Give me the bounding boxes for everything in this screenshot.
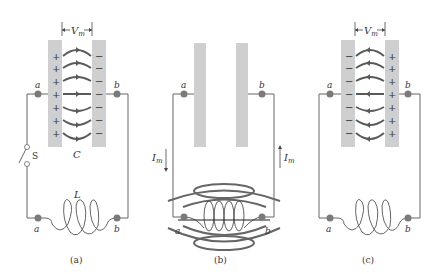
node-a-bottom bbox=[327, 215, 334, 222]
svg-text:+: + bbox=[388, 51, 396, 62]
caption-a: (a) bbox=[70, 255, 82, 265]
inductor-coil bbox=[38, 199, 117, 234]
svg-text:−: − bbox=[345, 102, 353, 113]
panel-c: Vm −−−−−−− +++++++ bbox=[319, 22, 420, 265]
svg-text:Im: Im bbox=[151, 152, 163, 165]
switch: S bbox=[19, 145, 38, 167]
capacitor-label: C bbox=[73, 149, 81, 160]
svg-text:+: + bbox=[52, 89, 60, 100]
node-b-label: b bbox=[114, 80, 120, 90]
node-b-label: b bbox=[405, 80, 411, 90]
voltage-dimension: Vm bbox=[62, 22, 92, 38]
svg-text:+: + bbox=[388, 63, 396, 74]
node-a-top bbox=[181, 91, 188, 98]
switch-label: S bbox=[32, 151, 38, 161]
svg-text:Im: Im bbox=[283, 152, 295, 165]
voltage-dimension: Vm bbox=[355, 22, 385, 38]
svg-text:+: + bbox=[52, 51, 60, 62]
node-b-bottom bbox=[405, 215, 412, 222]
svg-text:−: − bbox=[95, 115, 103, 126]
node-b-bottom-label: b bbox=[114, 224, 120, 234]
svg-text:−: − bbox=[95, 128, 103, 139]
current-arrow-right: Im bbox=[278, 145, 295, 168]
node-a-label: a bbox=[181, 80, 186, 90]
panel-b: a b Im Im bbox=[151, 43, 295, 265]
voltage-label: Vm bbox=[71, 25, 85, 38]
node-a-label: a bbox=[35, 80, 40, 90]
node-b-top bbox=[405, 91, 412, 98]
node-b-bottom bbox=[259, 214, 266, 221]
node-a-bottom-label: a bbox=[175, 226, 180, 236]
capacitor-left-plate bbox=[194, 43, 206, 147]
svg-text:+: + bbox=[52, 76, 60, 87]
node-a-top bbox=[327, 91, 334, 98]
svg-text:+: + bbox=[388, 102, 396, 113]
svg-text:+: + bbox=[388, 76, 396, 87]
caption-c: (c) bbox=[362, 255, 374, 265]
svg-text:+: + bbox=[52, 128, 60, 139]
svg-text:−: − bbox=[95, 76, 103, 87]
capacitor-right-plate bbox=[236, 43, 248, 147]
node-b-top bbox=[114, 91, 121, 98]
panel-a: Vm +++++++ −−−−−−− C bbox=[19, 22, 128, 265]
node-a-bottom-label: a bbox=[34, 224, 39, 234]
inductor-coil bbox=[330, 199, 408, 234]
svg-text:−: − bbox=[345, 128, 353, 139]
svg-text:−: − bbox=[345, 63, 353, 74]
inductor-coil bbox=[184, 201, 262, 231]
node-a-bottom bbox=[181, 214, 188, 221]
svg-text:+: + bbox=[388, 128, 396, 139]
svg-text:−: − bbox=[95, 63, 103, 74]
node-a-label: a bbox=[327, 80, 332, 90]
svg-text:−: − bbox=[95, 89, 103, 100]
inductor-label: L bbox=[73, 189, 81, 200]
svg-text:−: − bbox=[95, 102, 103, 113]
svg-text:−: − bbox=[345, 51, 353, 62]
node-a-bottom-label: a bbox=[326, 224, 331, 234]
lc-circuit-diagram: Vm +++++++ −−−−−−− C bbox=[0, 0, 437, 274]
caption-b: (b) bbox=[214, 255, 227, 265]
svg-text:+: + bbox=[388, 115, 396, 126]
svg-text:+: + bbox=[52, 102, 60, 113]
node-b-bottom-label: b bbox=[265, 226, 271, 236]
svg-text:−: − bbox=[345, 115, 353, 126]
node-b-bottom bbox=[114, 215, 121, 222]
voltage-label: Vm bbox=[364, 25, 378, 38]
node-a-bottom bbox=[35, 215, 42, 222]
svg-text:−: − bbox=[345, 89, 353, 100]
node-a-top bbox=[35, 91, 42, 98]
node-b-top bbox=[259, 91, 266, 98]
svg-text:−: − bbox=[95, 51, 103, 62]
current-arrow-left: Im bbox=[151, 149, 168, 172]
svg-text:+: + bbox=[388, 89, 396, 100]
svg-text:+: + bbox=[52, 115, 60, 126]
svg-text:−: − bbox=[345, 76, 353, 87]
node-b-label: b bbox=[259, 80, 265, 90]
node-b-bottom-label: b bbox=[405, 224, 411, 234]
svg-text:+: + bbox=[52, 63, 60, 74]
